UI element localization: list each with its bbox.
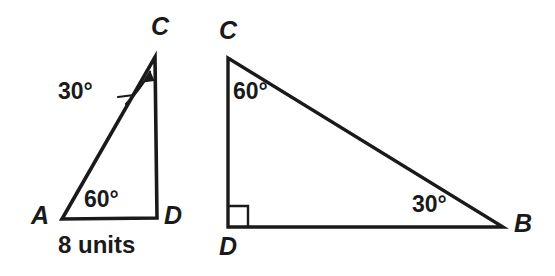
triangle-CDB-outline	[228, 58, 503, 227]
angle-label-30-at-b: 30°	[412, 193, 447, 216]
vertex-label-c-right: C	[219, 18, 237, 43]
angle-label-30-at-c-left: 30°	[58, 80, 93, 103]
vertex-label-c-left: C	[151, 14, 169, 39]
right-angle-marker-icon	[228, 206, 248, 227]
angle-label-60-at-c-right: 60°	[233, 80, 268, 103]
vertex-label-d-left: D	[164, 203, 182, 228]
angle-label-60-at-a: 60°	[84, 188, 119, 211]
vertex-label-a: A	[31, 203, 49, 228]
triangle-CDB	[228, 58, 503, 227]
vertex-label-b: B	[514, 211, 532, 236]
side-label-ad-8-units: 8 units	[58, 233, 135, 257]
geometry-figure: C A D 30° 60° 8 units C D B 60° 30°	[0, 0, 555, 276]
vertex-label-d-right: D	[219, 234, 237, 259]
